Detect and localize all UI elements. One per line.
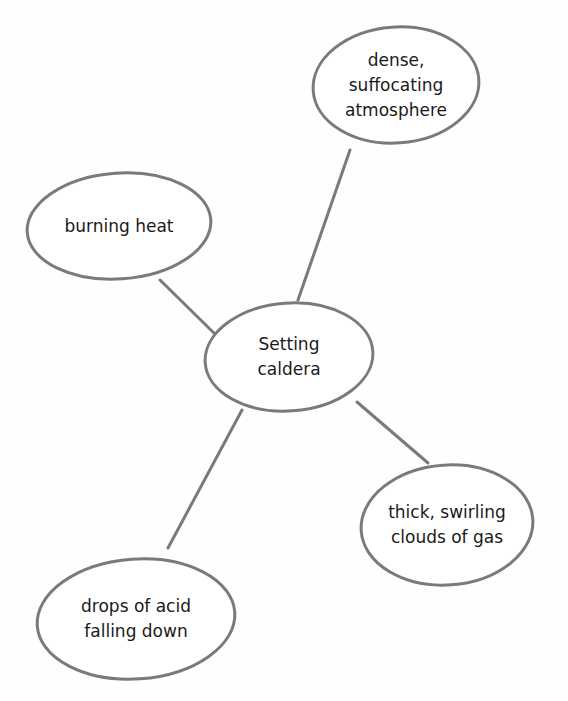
node-atmosphere-label: dense, suffocating atmosphere [313,27,479,143]
connector-atmosphere [298,150,350,300]
node-heat-label: burning heat [27,173,211,279]
connector-gas [357,402,428,463]
center-node-label: Setting caldera [205,303,373,411]
concept-map: Setting caldera dense, suffocating atmos… [0,0,568,701]
connector-acid [168,410,242,548]
node-gas-label: thick, swirling clouds of gas [361,465,533,585]
node-acid-label: drops of acid falling down [37,559,235,679]
